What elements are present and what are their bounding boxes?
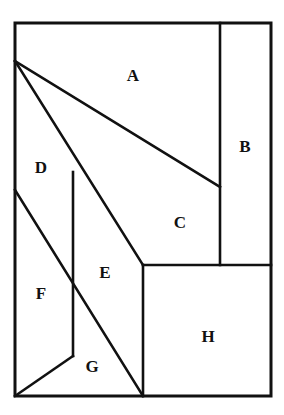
figure-container: A B C D E F G H — [0, 0, 284, 415]
region-label-f: F — [36, 284, 46, 303]
region-label-c: C — [174, 213, 186, 232]
region-label-b: B — [239, 137, 250, 156]
region-label-g: G — [85, 357, 98, 376]
region-label-h: H — [201, 327, 214, 346]
region-label-e: E — [99, 263, 110, 282]
region-label-a: A — [127, 66, 140, 85]
dissected-rectangle-diagram: A B C D E F G H — [0, 0, 284, 415]
region-label-d: D — [35, 158, 47, 177]
